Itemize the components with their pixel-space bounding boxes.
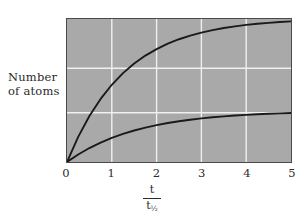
- x-axis-label: t t½: [0, 184, 304, 212]
- curve-upper-curve: [67, 21, 291, 162]
- x-axis-tick-labels: 012345: [66, 166, 292, 182]
- x-tick-5: 5: [288, 166, 295, 180]
- y-axis-label-line1: Number: [8, 70, 66, 84]
- x-axis-denominator: t½: [142, 199, 162, 213]
- curves: [67, 19, 291, 162]
- x-tick-3: 3: [198, 166, 205, 180]
- x-tick-0: 0: [62, 166, 69, 180]
- curve-lower-curve: [67, 113, 291, 162]
- x-tick-1: 1: [108, 166, 115, 180]
- x-axis-numerator: t: [142, 184, 162, 198]
- x-tick-2: 2: [153, 166, 160, 180]
- plot-area: [66, 18, 292, 163]
- x-axis-fraction: t t½: [142, 184, 162, 212]
- figure-radioactive-accumulation-chart: Number of atoms 012345 t t½: [0, 0, 304, 219]
- x-axis-denominator-base: t: [146, 199, 150, 212]
- x-tick-4: 4: [243, 166, 250, 180]
- y-axis-label: Number of atoms: [8, 70, 66, 98]
- x-axis-denominator-subscript: ½: [151, 204, 158, 213]
- y-axis-label-line2: of atoms: [8, 84, 66, 98]
